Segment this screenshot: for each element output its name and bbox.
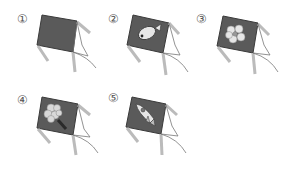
kite-flower-icon xyxy=(190,0,290,86)
kite-item-2: ② xyxy=(100,0,200,86)
kite-fish-icon xyxy=(100,0,200,86)
kite-item-3: ③ xyxy=(190,0,290,86)
kite-item-1: ① xyxy=(0,0,100,86)
kite-plain-icon xyxy=(0,0,100,86)
kite-item-4: ④ xyxy=(0,85,100,171)
kite-rocket-icon xyxy=(100,85,200,171)
kite-tree-icon xyxy=(0,85,100,171)
kite-item-5: ⑤ xyxy=(100,85,200,171)
